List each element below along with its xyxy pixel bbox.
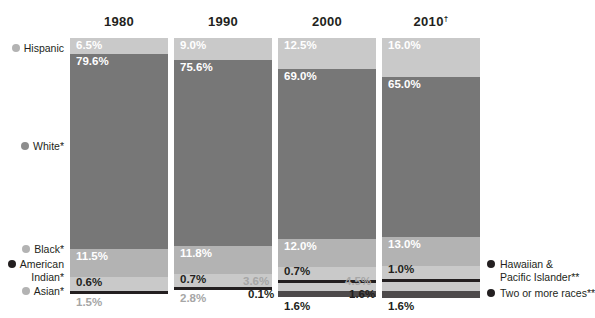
outside-label-hawaiian-2010: 1.6% — [349, 288, 375, 301]
legend-item-hispanic: Hispanic — [12, 42, 64, 55]
legend-label-line2: Indian* — [8, 271, 64, 284]
legend-label: Hispanic — [24, 42, 64, 55]
outside-label-two-or-more-2000: 1.6% — [284, 300, 310, 313]
segment-asian-1980: 0.6% — [70, 277, 168, 291]
legend-item-white: White* — [21, 140, 64, 153]
segment-value-label: 79.6% — [76, 55, 109, 68]
segment-value-label: 13.0% — [388, 238, 421, 251]
segment-value-label: 75.6% — [180, 61, 213, 74]
segment-hispanic-1990: 9.0% — [174, 38, 272, 60]
stacked-bar-1990: 9.0% 75.6% 11.8% 0.7% — [174, 38, 272, 290]
segment-value-label: 9.0% — [180, 39, 206, 52]
segment-white-1980: 79.6% — [70, 54, 168, 249]
white-color-dot-icon — [21, 142, 29, 150]
legend-item-american-indian: American Indian* — [8, 258, 64, 283]
outside-label-hawaiian-2000: 0.1% — [248, 288, 274, 301]
black-color-dot-icon — [22, 245, 30, 253]
segment-value-label: 0.6% — [76, 276, 102, 289]
segment-hispanic-1980: 6.5% — [70, 38, 168, 54]
segment-value-label: 6.5% — [76, 39, 102, 52]
stacked-bar-2010: 16.0% 65.0% 13.0% 1.0% — [382, 38, 480, 298]
column-header-2000: 2000 — [278, 14, 376, 29]
segment-asian-band-2010 — [382, 282, 480, 291]
segment-black-1980: 11.5% — [70, 249, 168, 277]
column-header-year: 1980 — [104, 14, 134, 29]
column-header-year: 2010 — [414, 14, 444, 29]
outside-label-asian-2000: 3.6% — [243, 275, 269, 288]
column-header-1980: 1980 — [70, 14, 168, 29]
segment-black-2010: 13.0% — [382, 237, 480, 266]
legend-label: Asian* — [34, 285, 64, 298]
segment-black-1990: 11.8% — [174, 246, 272, 274]
segment-two-or-more-2010 — [382, 291, 480, 298]
legend-item-asian: Asian* — [22, 285, 64, 298]
segment-black-2000: 12.0% — [278, 239, 376, 267]
legend-label-line2: Pacific Islander** — [500, 271, 579, 284]
hispanic-color-dot-icon — [12, 44, 20, 52]
segment-value-label: 11.5% — [76, 250, 108, 263]
hawaiian-color-dot-icon — [487, 260, 495, 268]
segment-american-indian-1980 — [70, 291, 168, 294]
legend-item-hawaiian-pacific-islander: Hawaiian & Pacific Islander** — [487, 258, 579, 283]
american-indian-color-dot-icon — [8, 260, 16, 268]
segment-value-label: 69.0% — [284, 70, 317, 83]
outside-label-asian-2010: 4.5% — [345, 275, 371, 288]
segment-white-2010: 65.0% — [382, 77, 480, 237]
column-header-year: 2000 — [312, 14, 342, 29]
segment-asian-2010: 1.0% — [382, 266, 480, 279]
segment-value-label: 11.8% — [180, 247, 212, 260]
column-header-2010: 2010† — [382, 14, 480, 29]
segment-hispanic-2010: 16.0% — [382, 38, 480, 77]
two-or-more-races-color-dot-icon — [487, 289, 495, 297]
segment-value-label: 12.0% — [284, 240, 317, 253]
stacked-bar-1980: 6.5% 79.6% 11.5% 0.6% — [70, 38, 168, 294]
column-header-dagger: † — [444, 14, 449, 23]
asian-color-dot-icon — [22, 287, 30, 295]
legend-label: Black* — [34, 243, 64, 256]
segment-hispanic-2000: 12.5% — [278, 38, 376, 69]
segment-white-1990: 75.6% — [174, 60, 272, 246]
segment-value-label: 65.0% — [388, 78, 421, 91]
segment-value-label: 1.0% — [388, 263, 414, 276]
legend-label: American — [20, 258, 64, 271]
legend-label: White* — [33, 140, 64, 153]
column-header-1990: 1990 — [174, 14, 272, 29]
segment-white-2000: 69.0% — [278, 69, 376, 239]
segment-value-label: 0.7% — [284, 265, 310, 278]
stacked-bar-2000: 12.5% 69.0% 12.0% 0.7% — [278, 38, 376, 297]
legend-item-black: Black* — [22, 243, 64, 256]
outside-label-asian-1990: 2.8% — [180, 292, 206, 305]
segment-value-label: 0.7% — [180, 273, 206, 286]
segment-value-label: 16.0% — [388, 39, 421, 52]
outside-label-two-or-more-2010: 1.6% — [388, 300, 414, 313]
segment-value-label: 12.5% — [284, 39, 317, 52]
legend-label: Two or more races** — [500, 287, 595, 300]
legend-label: Hawaiian & — [500, 258, 553, 271]
legend-item-two-or-more-races: Two or more races** — [487, 287, 595, 300]
outside-label-asian-1980: 1.5% — [76, 296, 102, 309]
column-header-year: 1990 — [208, 14, 238, 29]
